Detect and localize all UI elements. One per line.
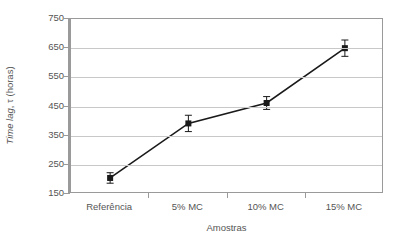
gridline [71,136,382,137]
x-axis-tick-label: 5% MC [148,200,226,213]
x-axis-tick-mark [305,193,306,198]
x-axis-tick-label: Referência [70,200,148,213]
y-axis-title-italic: Time lag [4,108,15,144]
data-point-marker [185,120,191,126]
data-point-marker [107,175,113,181]
series-line [110,48,345,178]
x-axis-tick-label: 10% MC [227,200,305,213]
gridline [71,165,382,166]
x-axis-tick-mark [148,193,149,198]
gridline [71,77,382,78]
y-axis-title: Time lag, τ (horas) [3,18,17,193]
data-point-marker [264,100,270,106]
chart-container: Time lag, τ (horas) 75065055045035025015… [0,0,396,245]
x-axis-tick-label: 15% MC [305,200,383,213]
plot-area [70,18,383,193]
x-axis-tick-mark [227,193,228,198]
x-axis-title: Amostras [70,222,383,233]
gridline [71,48,382,49]
y-axis-title-rest: , τ (horas) [4,66,15,108]
gridline [71,107,382,108]
x-axis-tick-marks [70,193,383,199]
x-axis-tick-labels: Referência5% MC10% MC15% MC [70,200,383,214]
